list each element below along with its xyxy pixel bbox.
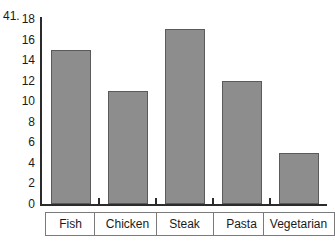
x-axis-tick [269, 198, 271, 205]
y-axis-tick-label: 2 [28, 177, 35, 189]
y-axis-tick-label: 16 [22, 34, 35, 46]
bar-slot [51, 19, 91, 204]
bar-fish [51, 50, 91, 204]
bar-slot [165, 19, 205, 204]
category-label-chicken: Chicken [94, 212, 162, 236]
x-axis-tick [98, 198, 100, 205]
category-label-vegetarian: Vegetarian [263, 212, 335, 236]
y-axis-tick-label: 10 [22, 95, 35, 107]
y-axis-tick-label: 12 [22, 75, 35, 87]
x-axis-tick [212, 198, 214, 205]
y-axis-tick-labels: 181614121086420 [0, 0, 38, 245]
bar-vegetarian [279, 153, 319, 204]
bar-chicken [108, 91, 148, 204]
y-axis-tick-label: 4 [28, 157, 35, 169]
category-label-fish: Fish [45, 212, 97, 236]
bar-steak [165, 29, 205, 204]
x-axis-ticks [42, 198, 327, 206]
y-axis-tick-label: 8 [28, 116, 35, 128]
y-axis-tick-label: 6 [28, 136, 35, 148]
bar-slot [108, 19, 148, 204]
bar-pasta [222, 81, 262, 204]
x-axis-tick [155, 198, 157, 205]
y-axis-tick-label: 0 [28, 198, 35, 210]
bars-layer [42, 19, 327, 204]
category-label-steak: Steak [156, 212, 214, 236]
y-axis-tick-label: 18 [22, 13, 35, 25]
bar-slot [222, 19, 262, 204]
y-axis-tick-label: 14 [22, 54, 35, 66]
bar-slot [279, 19, 319, 204]
category-label-boxes: FishChickenSteakPastaVegetarian [42, 212, 330, 242]
